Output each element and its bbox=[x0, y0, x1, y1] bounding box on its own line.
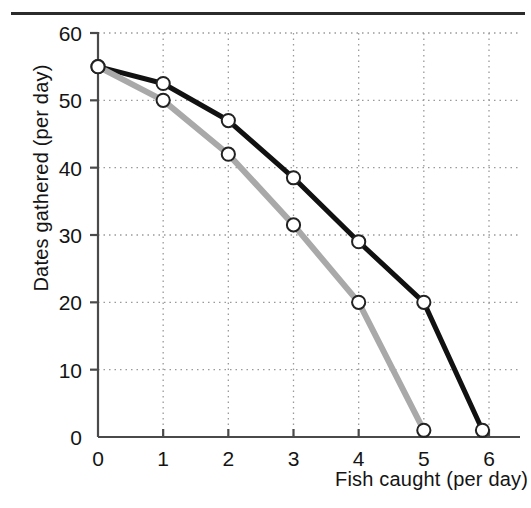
y-tick-label-60: 60 bbox=[59, 22, 82, 45]
data-series-group bbox=[98, 67, 482, 431]
x-tick-label-3: 3 bbox=[288, 447, 300, 470]
chart-figure: 01020304050600123456 Dates gathered (per… bbox=[0, 0, 531, 508]
tick-labels-group: 01020304050600123456 bbox=[59, 22, 495, 470]
x-tick-label-1: 1 bbox=[157, 447, 169, 470]
x-tick-label-4: 4 bbox=[353, 447, 365, 470]
y-tick-label-0: 0 bbox=[70, 426, 82, 449]
y-tick-label-40: 40 bbox=[59, 157, 82, 180]
x-axis-label: Fish caught (per day) bbox=[335, 468, 528, 491]
data-markers-group bbox=[91, 60, 489, 437]
chart-plot-area: 01020304050600123456 bbox=[0, 0, 531, 508]
y-tick-label-50: 50 bbox=[59, 89, 82, 112]
y-tick-label-30: 30 bbox=[59, 224, 82, 247]
y-tick-label-20: 20 bbox=[59, 291, 82, 314]
x-tick-label-0: 0 bbox=[92, 447, 104, 470]
x-tick-label-5: 5 bbox=[418, 447, 430, 470]
x-tick-label-6: 6 bbox=[483, 447, 495, 470]
x-tick-label-2: 2 bbox=[222, 447, 234, 470]
y-tick-label-10: 10 bbox=[59, 359, 82, 382]
y-axis-label: Dates gathered (per day) bbox=[24, 38, 58, 318]
